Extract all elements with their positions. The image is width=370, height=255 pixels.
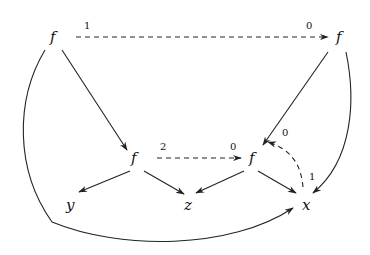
edge-label-f1-f2-source: 1 [84, 20, 90, 31]
node-x: x [302, 196, 311, 214]
edge-f3-y [79, 171, 130, 192]
edge-f1-f3 [62, 50, 127, 150]
node-f3: f [130, 149, 139, 167]
edge-f4-x [258, 171, 296, 193]
edge-label-f3-f4-source: 2 [160, 141, 166, 152]
edge-f2-f4 [263, 52, 328, 145]
node-z: z [183, 196, 192, 214]
node-f2: f [335, 28, 344, 46]
edge-f4-z [196, 171, 244, 193]
edge-f3-z [144, 171, 184, 194]
edge-label-f3-f4-target: 0 [230, 141, 236, 152]
edge-label-f1-f2-target: 0 [306, 20, 312, 31]
graph-diagram: f f f f y z x 1 0 2 0 0 1 [0, 0, 370, 255]
edge-label-x-f4-target: 0 [282, 127, 288, 138]
edge-f1-x [23, 50, 293, 242]
edge-f2-x [313, 52, 351, 193]
edge-label-x-f4-source: 1 [309, 171, 315, 182]
node-f1: f [49, 28, 58, 46]
node-f4: f [248, 149, 257, 167]
node-y: y [65, 196, 75, 214]
